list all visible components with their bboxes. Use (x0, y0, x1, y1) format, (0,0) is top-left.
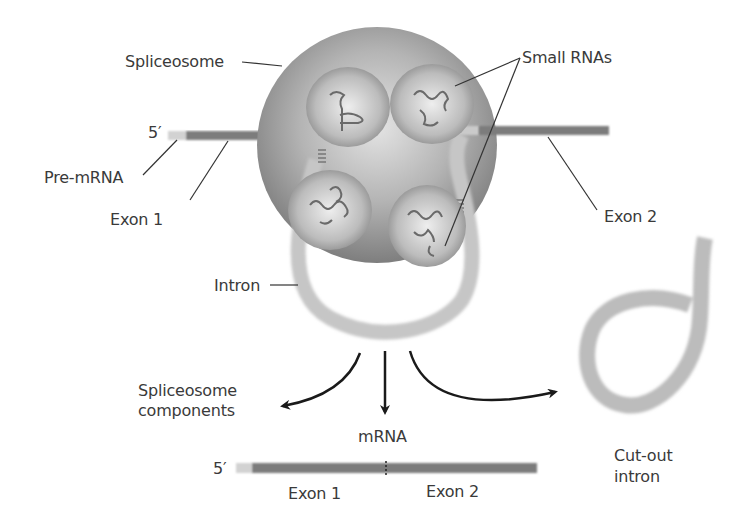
label-spliceosome-components-2: components (138, 401, 235, 420)
label-spliceosome: Spliceosome (125, 52, 224, 71)
label-five-prime-bottom: 5′ (213, 459, 226, 478)
exon2-strand (455, 126, 609, 135)
label-exon1-top: Exon 1 (110, 210, 163, 229)
label-exon2-top: Exon 2 (604, 207, 657, 226)
label-intron: Intron (214, 276, 260, 295)
label-exon2-bottom: Exon 2 (426, 482, 479, 501)
label-exon1-bottom: Exon 1 (288, 484, 341, 503)
label-mrna: mRNA (358, 427, 407, 446)
process-arrows (283, 351, 555, 412)
label-five-prime-top: 5′ (148, 123, 161, 142)
label-pre-mrna: Pre-mRNA (44, 168, 123, 187)
mrna-strand (236, 461, 537, 476)
label-small-rnas: Small RNAs (522, 48, 612, 67)
cut-out-intron-lariat (587, 238, 705, 405)
label-cut-out-intron-1: Cut-out (614, 446, 672, 465)
arrow-to-cut-out-intron (410, 351, 555, 400)
arrow-to-components (283, 353, 360, 406)
splicing-diagram: Spliceosome Small RNAs 5′ Pre-mRNA Exon … (0, 0, 746, 522)
label-spliceosome-components-1: Spliceosome (138, 381, 237, 400)
label-cut-out-intron-2: intron (614, 467, 660, 486)
